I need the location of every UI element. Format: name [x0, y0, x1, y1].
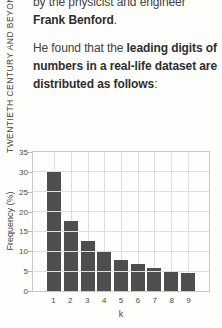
- intro-p2-colon: :: [154, 77, 157, 91]
- intro-p1-text: by the physicist and engineer: [33, 0, 186, 9]
- bar-digit-4: [97, 252, 111, 291]
- y-tick-mark: [28, 231, 32, 232]
- x-tick-label: 3: [79, 296, 96, 305]
- x-axis-label: k: [32, 309, 210, 319]
- y-tick-mark: [28, 192, 32, 193]
- intro-text-block: by the physicist and engineer Frank Benf…: [33, 0, 219, 93]
- intro-p1-bold-text: Frank Benford: [33, 13, 114, 27]
- y-tick-mark: [28, 152, 32, 153]
- bar-digit-5: [114, 260, 128, 291]
- y-tick-mark: [28, 291, 32, 292]
- bar-digit-9: [181, 273, 195, 291]
- bar-digit-6: [131, 264, 145, 291]
- chapter-sidebar-label: TWENTIETH CENTURY AND BEYOND: [5, 0, 15, 153]
- y-tick-mark: [28, 251, 32, 252]
- y-tick-mark: [28, 271, 32, 272]
- y-tick-label: 10: [19, 247, 28, 256]
- textbook-page: TWENTIETH CENTURY AND BEYOND by the phys…: [0, 0, 222, 328]
- x-tick-label: 6: [129, 296, 146, 305]
- y-tick-label: 20: [19, 207, 28, 216]
- intro-paragraph-2: He found that the leading digits of numb…: [33, 39, 219, 93]
- y-tick-label: 15: [19, 227, 28, 236]
- x-tick-label: 9: [180, 296, 197, 305]
- x-tick-label: 5: [113, 296, 130, 305]
- x-tick-label: 1: [45, 296, 62, 305]
- horizontal-gridline: [33, 251, 209, 252]
- y-axis-ticks: 05101520253035: [0, 146, 28, 328]
- intro-p1-period: .: [114, 13, 117, 27]
- bar-digit-8: [164, 271, 178, 291]
- plot-area: [32, 151, 210, 292]
- intro-p2-text: He found that the: [33, 41, 127, 55]
- horizontal-gridline: [33, 211, 209, 212]
- x-tick-label: 8: [163, 296, 180, 305]
- horizontal-gridline: [33, 171, 209, 172]
- benford-bar-chart: Frequency (%) 05101520253035 123456789 k: [0, 146, 222, 328]
- x-tick-label: 2: [62, 296, 79, 305]
- y-tick-label: 35: [19, 148, 28, 157]
- y-tick-label: 30: [19, 167, 28, 176]
- y-tick-mark: [28, 172, 32, 173]
- y-tick-mark: [28, 212, 32, 213]
- horizontal-gridline: [33, 271, 209, 272]
- intro-paragraph-1: by the physicist and engineer Frank Benf…: [33, 0, 219, 29]
- horizontal-gridline: [33, 231, 209, 232]
- x-axis-ticks: 123456789: [32, 296, 210, 305]
- x-tick-label: 7: [146, 296, 163, 305]
- horizontal-gridline: [33, 191, 209, 192]
- x-tick-label: 4: [96, 296, 113, 305]
- y-tick-label: 25: [19, 187, 28, 196]
- bar-digit-3: [81, 241, 95, 291]
